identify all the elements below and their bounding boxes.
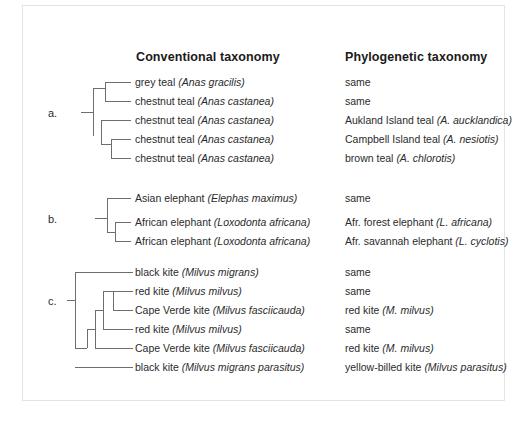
phylo-label: yellow-billed kite (Milvus parasitus) — [345, 361, 507, 373]
phylo-label: same — [345, 192, 371, 204]
taxon-label: African elephant (Loxodonta africana) — [135, 216, 310, 228]
phylo-label: same — [345, 76, 371, 88]
taxon-label: chestnut teal (Anas castanea) — [135, 133, 274, 145]
group-label-c: c. — [48, 295, 57, 307]
taxon-scientific-name: (Anas castanea) — [197, 152, 273, 164]
cladogram-group-a — [81, 78, 137, 166]
taxon-scientific-name: (Milvus migrans) — [182, 266, 259, 278]
phylo-common-name: Afr. savannah elephant — [345, 235, 455, 247]
phylo-label: same — [345, 285, 371, 297]
taxon-label: black kite (Milvus migrans) — [135, 266, 259, 278]
group-label-a: a. — [48, 107, 57, 119]
cladogram-group-c — [67, 268, 137, 376]
taxon-label: Cape Verde kite (Milvus fasciicauda) — [135, 304, 305, 316]
phylo-label: red kite (M. milvus) — [345, 342, 434, 354]
group-label-b: b. — [48, 213, 57, 225]
taxon-scientific-name: (Loxodonta africana) — [214, 235, 310, 247]
taxon-scientific-name: (Milvus migrans parasitus) — [182, 361, 305, 373]
taxon-label: African elephant (Loxodonta africana) — [135, 235, 310, 247]
phylo-common-name: same — [345, 95, 371, 107]
cladogram-group-b — [95, 194, 137, 250]
taxon-scientific-name: (Milvus milvus) — [172, 323, 241, 335]
taxon-common-name: red kite — [135, 323, 172, 335]
taxon-label: Cape Verde kite (Milvus fasciicauda) — [135, 342, 305, 354]
phylo-common-name: Afr. forest elephant — [345, 216, 436, 228]
phylo-common-name: same — [345, 285, 371, 297]
taxon-scientific-name: (Anas castanea) — [197, 114, 273, 126]
phylo-label: same — [345, 266, 371, 278]
phylo-label: brown teal (A. chlorotis) — [345, 152, 455, 164]
column-header-phylogenetic: Phylogenetic taxonomy — [345, 50, 487, 64]
phylo-common-name: red kite — [345, 304, 382, 316]
phylo-common-name: same — [345, 192, 371, 204]
taxon-common-name: Cape Verde kite — [135, 304, 213, 316]
phylo-common-name: same — [345, 323, 371, 335]
phylo-common-name: same — [345, 266, 371, 278]
taxon-common-name: chestnut teal — [135, 133, 197, 145]
phylo-scientific-name: (Milvus parasitus) — [424, 361, 506, 373]
taxon-scientific-name: (Elephas maximus) — [207, 192, 297, 204]
phylo-label: same — [345, 323, 371, 335]
phylo-label: red kite (M. milvus) — [345, 304, 434, 316]
taxon-common-name: grey teal — [135, 76, 178, 88]
taxon-common-name: chestnut teal — [135, 95, 197, 107]
taxon-scientific-name: (Milvus fasciicauda) — [213, 342, 305, 354]
taxon-common-name: red kite — [135, 285, 172, 297]
phylo-scientific-name: (A. chlorotis) — [396, 152, 455, 164]
phylo-scientific-name: (A. nesiotis) — [443, 133, 498, 145]
phylo-scientific-name: (L. africana) — [436, 216, 492, 228]
taxon-label: chestnut teal (Anas castanea) — [135, 114, 274, 126]
taxon-common-name: black kite — [135, 361, 182, 373]
phylo-label: Campbell Island teal (A. nesiotis) — [345, 133, 499, 145]
phylo-scientific-name: (A. aucklandica) — [437, 114, 512, 126]
phylo-common-name: Campbell Island teal — [345, 133, 443, 145]
phylo-common-name: red kite — [345, 342, 382, 354]
taxon-label: black kite (Milvus migrans parasitus) — [135, 361, 304, 373]
taxon-common-name: Cape Verde kite — [135, 342, 213, 354]
taxon-label: Asian elephant (Elephas maximus) — [135, 192, 297, 204]
taxon-scientific-name: (Anas gracilis) — [178, 76, 245, 88]
taxon-scientific-name: (Anas castanea) — [197, 133, 273, 145]
taxon-common-name: chestnut teal — [135, 114, 197, 126]
column-header-conventional: Conventional taxonomy — [136, 50, 280, 64]
taxon-label: chestnut teal (Anas castanea) — [135, 152, 274, 164]
taxon-common-name: black kite — [135, 266, 182, 278]
taxon-common-name: Asian elephant — [135, 192, 207, 204]
phylo-common-name: brown teal — [345, 152, 396, 164]
taxon-scientific-name: (Anas castanea) — [197, 95, 273, 107]
taxon-scientific-name: (Loxodonta africana) — [214, 216, 310, 228]
phylo-label: same — [345, 95, 371, 107]
taxon-scientific-name: (Milvus fasciicauda) — [213, 304, 305, 316]
taxon-common-name: African elephant — [135, 235, 214, 247]
taxon-scientific-name: (Milvus milvus) — [172, 285, 241, 297]
taxon-label: grey teal (Anas gracilis) — [135, 76, 245, 88]
phylo-common-name: same — [345, 76, 371, 88]
taxon-common-name: African elephant — [135, 216, 214, 228]
phylo-common-name: Aukland Island teal — [345, 114, 437, 126]
phylo-label: Afr. savannah elephant (L. cyclotis) — [345, 235, 508, 247]
taxon-label: red kite (Milvus milvus) — [135, 323, 242, 335]
phylo-scientific-name: (M. milvus) — [382, 342, 433, 354]
figure-frame: Conventional taxonomy Phylogenetic taxon… — [22, 5, 505, 401]
taxon-common-name: chestnut teal — [135, 152, 197, 164]
phylo-label: Aukland Island teal (A. aucklandica) — [345, 114, 512, 126]
phylo-label: Afr. forest elephant (L. africana) — [345, 216, 492, 228]
taxon-label: chestnut teal (Anas castanea) — [135, 95, 274, 107]
phylo-scientific-name: (M. milvus) — [382, 304, 433, 316]
phylo-scientific-name: (L. cyclotis) — [455, 235, 508, 247]
taxon-label: red kite (Milvus milvus) — [135, 285, 242, 297]
phylo-common-name: yellow-billed kite — [345, 361, 424, 373]
